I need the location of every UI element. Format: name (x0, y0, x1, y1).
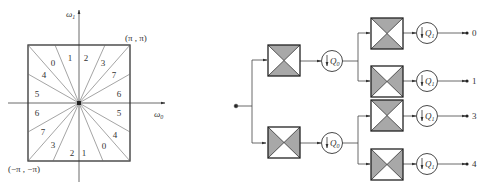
region-label: 0 (51, 58, 56, 68)
region-label: 7 (41, 127, 46, 137)
region-label: 6 (35, 108, 40, 118)
downsampler-q1-4: Q1 (417, 154, 438, 175)
corner-bottom-left-label: (−π , −π) (8, 164, 40, 174)
region-label: 7 (112, 70, 117, 80)
frequency-plane: 0123475665743021 (π , π) (−π , −π) ω1 ω0 (8, 9, 165, 182)
svg-text:4: 4 (472, 159, 477, 169)
region-label: 3 (101, 58, 106, 68)
diagram-canvas: 0123475665743021 (π , π) (−π , −π) ω1 ω0 (0, 0, 477, 187)
svg-text:1: 1 (472, 76, 477, 86)
filter-output-3 (371, 100, 403, 131)
region-label: 1 (68, 53, 73, 63)
omega0-label: ω0 (154, 109, 163, 120)
stage1-top-filter (268, 45, 300, 76)
corner-top-right-label: (π , π) (125, 33, 147, 43)
stage1-bottom-filter (268, 127, 300, 158)
downsampler-q1-1: Q1 (417, 71, 438, 92)
svg-text:3: 3 (472, 111, 477, 121)
svg-text:0: 0 (472, 28, 477, 38)
output-3: 3 (465, 111, 477, 121)
output-1: 1 (465, 76, 476, 86)
region-label: 5 (117, 108, 122, 118)
outputs: 0134 (465, 28, 477, 169)
filter-blocks (268, 18, 403, 180)
region-label: 0 (102, 141, 107, 151)
region-label: 2 (70, 148, 75, 158)
region-label: 4 (113, 130, 118, 140)
downsampler-q0-bottom: Q0 (322, 133, 343, 154)
filter-output-4 (371, 149, 403, 180)
region-label: 4 (42, 70, 47, 80)
output-0: 0 (465, 28, 477, 38)
output-4: 4 (465, 159, 477, 169)
origin-marker (77, 101, 81, 105)
downsampler-q1-3: Q1 (417, 106, 438, 127)
region-label: 1 (82, 148, 87, 158)
downsampler-q1-0: Q1 (417, 23, 438, 44)
region-label: 3 (51, 140, 56, 150)
omega1-label: ω1 (66, 9, 75, 20)
downsampler-q0-top: Q0 (322, 51, 343, 72)
region-label: 6 (117, 89, 122, 99)
filter-output-1 (371, 66, 403, 97)
region-labels: 0123475665743021 (35, 53, 122, 158)
filter-output-0 (371, 18, 403, 49)
region-label: 2 (84, 53, 89, 63)
region-label: 5 (35, 89, 40, 99)
